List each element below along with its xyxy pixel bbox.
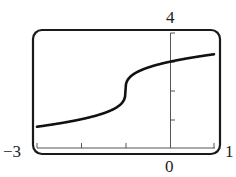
x-origin-label: 0 xyxy=(165,158,174,175)
y-max-label: 4 xyxy=(166,9,175,26)
x-max-label: 1 xyxy=(225,143,234,160)
data-curve xyxy=(37,54,214,126)
x-min-label: −3 xyxy=(3,143,21,160)
x-axis xyxy=(37,143,215,148)
chart-canvas xyxy=(0,0,236,177)
y-axis xyxy=(171,33,176,148)
